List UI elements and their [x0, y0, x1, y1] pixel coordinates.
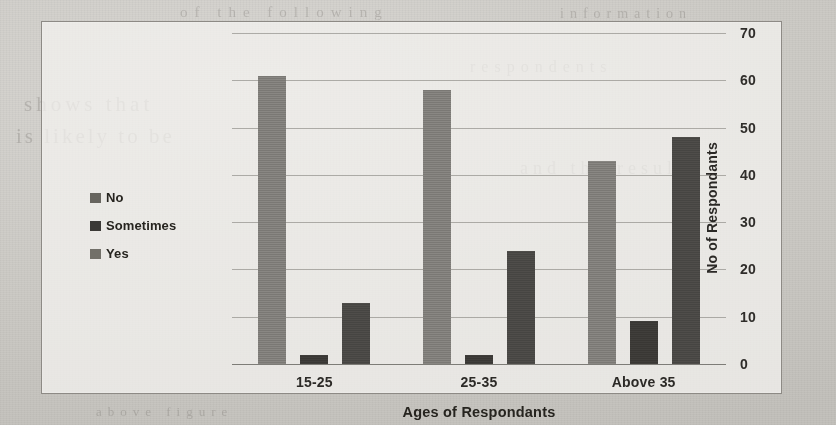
legend-label-sometimes: Sometimes [106, 218, 176, 233]
bar-yes-above-35[interactable] [672, 137, 700, 364]
scanned-page-background: of the following information shows that … [0, 0, 836, 425]
bar-group-15-25 [232, 33, 397, 364]
x-axis-title: Ages of Respondants [232, 404, 726, 420]
bar-sometimes-25-35[interactable] [465, 355, 493, 364]
legend-item-no[interactable]: No [90, 190, 176, 205]
legend-swatch-icon-sometimes [90, 221, 101, 231]
y-tick-70: 70 [740, 25, 782, 41]
bar-no-15-25[interactable] [258, 76, 286, 364]
y-tick-50: 50 [740, 120, 782, 136]
bar-group-above-35 [561, 33, 726, 364]
bar-yes-25-35[interactable] [507, 251, 535, 364]
legend-item-sometimes[interactable]: Sometimes [90, 218, 176, 233]
y-tick-0: 0 [740, 356, 782, 372]
x-axis-tick-labels: 15-2525-35Above 35 [232, 374, 726, 390]
y-tick-60: 60 [740, 72, 782, 88]
page-bleed-text-2: information [560, 6, 692, 22]
x-tick-25-35: 25-35 [397, 374, 562, 390]
legend-swatch-icon-no [90, 193, 101, 203]
legend-item-yes[interactable]: Yes [90, 246, 176, 261]
chart-legend: NoSometimesYes [90, 190, 176, 274]
legend-label-no: No [106, 190, 124, 205]
bar-yes-15-25[interactable] [342, 303, 370, 364]
y-tick-20: 20 [740, 261, 782, 277]
y-tick-10: 10 [740, 309, 782, 325]
bar-group-25-35 [397, 33, 562, 364]
page-bleed-text-1: of the following [180, 4, 389, 21]
plot-area [232, 33, 726, 364]
x-tick-15-25: 15-25 [232, 374, 397, 390]
chart-frame: 010203040506070 No of Respondants 15-252… [41, 21, 782, 394]
legend-swatch-icon-yes [90, 249, 101, 259]
y-tick-30: 30 [740, 214, 782, 230]
bar-groups [232, 33, 726, 364]
bar-sometimes-above-35[interactable] [630, 321, 658, 364]
legend-label-yes: Yes [106, 246, 129, 261]
bar-sometimes-15-25[interactable] [300, 355, 328, 364]
bar-no-25-35[interactable] [423, 90, 451, 364]
y-tick-40: 40 [740, 167, 782, 183]
x-tick-above-35: Above 35 [561, 374, 726, 390]
gridline-0 [232, 364, 726, 365]
page-bleed-text-7: above figure [96, 404, 233, 420]
bar-no-above-35[interactable] [588, 161, 616, 364]
y-axis-title: No of Respondants [704, 142, 720, 274]
